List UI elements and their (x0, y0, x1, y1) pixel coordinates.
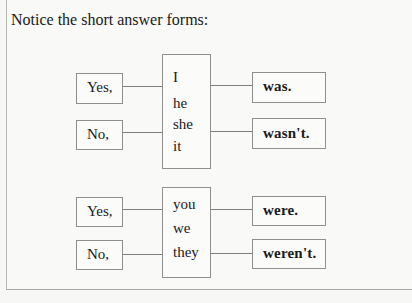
pronoun: we (173, 218, 191, 238)
connector-line (211, 131, 252, 132)
positive-answer: was. (263, 78, 292, 95)
no-label: No, (87, 126, 109, 143)
positive-answer-box: were. (252, 196, 326, 226)
connector-line (123, 132, 162, 133)
connector-line (211, 253, 252, 254)
pronoun: I (173, 67, 178, 87)
connector-line (123, 86, 162, 87)
no-box: No, (76, 240, 123, 270)
pronoun: it (173, 136, 181, 156)
yes-label: Yes, (87, 203, 113, 220)
pronoun: he (173, 93, 187, 113)
connector-line (211, 209, 252, 210)
negative-answer: wasn't. (263, 125, 310, 142)
connector-line (211, 85, 252, 86)
connector-line (123, 209, 162, 210)
yes-box: Yes, (76, 73, 123, 104)
negative-answer-box: wasn't. (252, 118, 326, 149)
negative-answer-box: weren't. (252, 239, 326, 269)
positive-answer-box: was. (252, 72, 326, 103)
pronoun-box: I he she it (162, 54, 211, 169)
pronoun: she (173, 114, 193, 134)
pronoun: they (173, 242, 199, 262)
yes-label: Yes, (87, 79, 113, 96)
no-label: No, (87, 246, 109, 263)
connector-line (123, 254, 162, 255)
positive-answer: were. (263, 202, 298, 219)
instruction-heading: Notice the short answer forms: (11, 11, 208, 29)
no-box: No, (76, 120, 123, 150)
yes-box: Yes, (76, 197, 123, 227)
pronoun-box: you we they (162, 187, 211, 278)
pronoun: you (173, 194, 196, 214)
negative-answer: weren't. (263, 245, 316, 262)
